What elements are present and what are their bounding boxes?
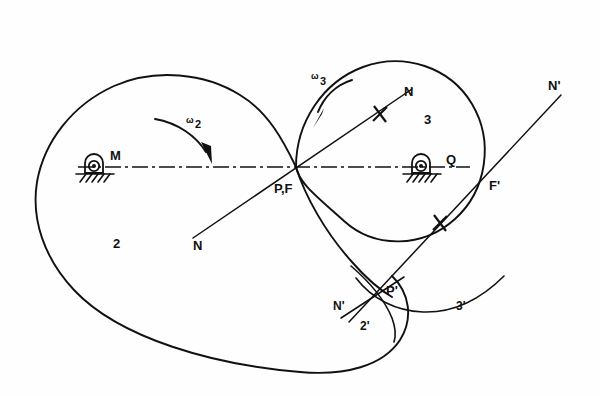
contact-point-prime-label: P' (386, 283, 398, 298)
normal-n-prime-crossmark (433, 215, 447, 231)
pivot-m-label: M (110, 148, 121, 163)
contact-point-label: P,F (274, 181, 293, 196)
body-3-label: 3 (424, 112, 431, 127)
body-2-prime-label: 2' (360, 319, 370, 333)
omega-2-arrow (155, 119, 212, 164)
body-2-label: 2 (113, 236, 120, 251)
force-f-prime-label: F' (489, 178, 500, 193)
normal-n-lower-label: N (193, 238, 202, 253)
normal-n-upper-label: N (404, 84, 413, 99)
pivot-m-hatching (80, 174, 110, 182)
pivot-m (76, 154, 114, 182)
omega-3-subscript: 3 (320, 75, 326, 87)
omega-3-arrow (313, 80, 352, 128)
cam-flank-right (296, 167, 392, 297)
pivot-q (403, 154, 441, 182)
omega-2-symbol: ω (186, 115, 194, 125)
omega-3-symbol: ω (311, 71, 319, 81)
omega-2-subscript: 2 (195, 118, 201, 130)
cam-follower-diagram: M Q N N N' F' N' 2' 3' 2 3 (0, 0, 600, 396)
pivot-q-hatching (407, 174, 437, 182)
normal-n-prime-lower-label: N' (333, 299, 345, 313)
diagram-canvas: M Q N N N' F' N' 2' 3' 2 3 (0, 0, 600, 396)
cam-profile-body-2 (36, 75, 409, 373)
body-3-prime-label: 3' (456, 299, 466, 313)
pivot-q-label: Q (446, 152, 456, 167)
common-normal-line-n-prime (349, 95, 561, 322)
normal-n-prime-upper-label: N' (548, 78, 560, 93)
follower-circle-body-3 (296, 61, 485, 241)
